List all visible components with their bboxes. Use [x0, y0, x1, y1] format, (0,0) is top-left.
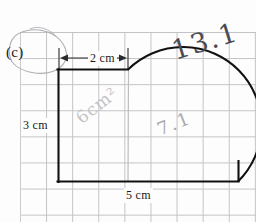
part-label: (c) [6, 44, 24, 61]
arrowhead-left-icon [60, 55, 68, 62]
arrowhead-right-icon [119, 55, 127, 62]
dimension-label-left: 3 cm [22, 118, 49, 133]
part-label-circle-overstroke [30, 27, 57, 37]
dimension-label-bottom: 5 cm [124, 188, 153, 203]
dimension-label-top: 2 cm [88, 51, 117, 66]
internal-division-line [128, 70, 129, 181]
worksheet-page: (c) 2 cm 3 cm 5 cm 13.1 7.1 6cm² [0, 0, 256, 222]
quarter-circle-arc [128, 47, 256, 181]
